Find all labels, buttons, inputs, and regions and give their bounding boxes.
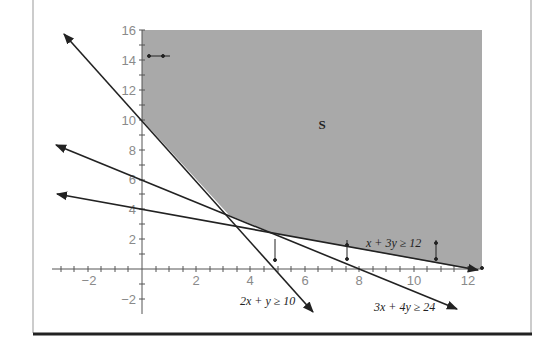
y-tick-label: 8 [129,143,136,158]
chart-frame: −2 2 4 6 8 10 12 −2 2 4 6 8 10 12 14 16 … [0,0,552,355]
x-tick-label: −2 [82,273,97,288]
x-axis [52,266,482,272]
y-tick-label: 2 [129,232,136,247]
inequality-label-2x-y: 2x + y ≥ 10 [240,294,295,308]
x-tick-label: 8 [355,273,362,288]
feasible-region-s [142,30,482,269]
x-tick-label: 10 [407,273,421,288]
y-tick-label: 6 [129,172,136,187]
region-label-s: S [318,117,325,132]
x-tick-label: 2 [192,273,199,288]
x-tick-label: 6 [301,273,308,288]
inequality-label-x-3y: x + 3y ≥ 12 [365,236,421,250]
x-tick-label: 12 [461,273,475,288]
feasible-region-chart: −2 2 4 6 8 10 12 −2 2 4 6 8 10 12 14 16 … [0,0,552,355]
y-tick-label: 4 [129,202,136,217]
y-tick-label: 12 [122,83,136,98]
inequality-label-3x-4y: 3x + 4y ≥ 24 [373,300,435,314]
y-tick-label: 16 [122,23,136,38]
x-tick-label: 4 [246,273,253,288]
y-tick-label: 14 [122,53,136,68]
y-tick-label: 10 [122,113,136,128]
y-tick-label: −2 [121,292,136,307]
